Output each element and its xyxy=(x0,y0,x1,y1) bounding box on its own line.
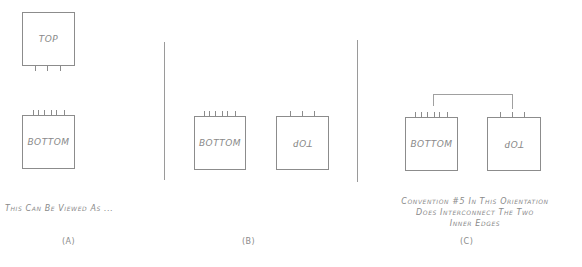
tag-b: (B) xyxy=(242,237,255,246)
caption-c-line-1: Convention #5 In This Orientation xyxy=(375,196,575,207)
top-label: TOP xyxy=(23,34,74,44)
caption-c-line-2: Does Interconnect The Two xyxy=(375,207,575,218)
bottom-label: BOTTOM xyxy=(406,139,457,149)
caption-c: Convention #5 In This Orientation Does I… xyxy=(375,196,575,229)
pin xyxy=(35,66,36,71)
pin xyxy=(60,66,61,71)
bottom-component-box: BOTTOM xyxy=(194,116,246,170)
interconnect-wire-right xyxy=(512,94,513,109)
caption-a: This Can Be Viewed As ... xyxy=(5,203,165,214)
top-label-flipped: TOP xyxy=(277,138,328,148)
divider xyxy=(357,40,358,182)
tag-c: (C) xyxy=(460,237,473,246)
interconnect-wire-top xyxy=(433,94,513,95)
top-component-box: TOP xyxy=(22,12,75,66)
bottom-component-box: BOTTOM xyxy=(22,115,75,169)
interconnect-wire-left xyxy=(433,94,434,106)
caption-c-line-3: Inner Edges xyxy=(375,218,575,229)
bottom-label: BOTTOM xyxy=(23,137,74,147)
tag-a: (A) xyxy=(62,237,75,246)
top-label-flipped: TOP xyxy=(488,139,540,149)
bottom-label: BOTTOM xyxy=(195,138,245,148)
divider xyxy=(164,42,165,180)
top-component-box-flipped: TOP xyxy=(487,117,541,171)
bottom-component-box: BOTTOM xyxy=(405,117,458,171)
pin xyxy=(47,66,48,71)
top-component-box-flipped: TOP xyxy=(276,116,329,170)
